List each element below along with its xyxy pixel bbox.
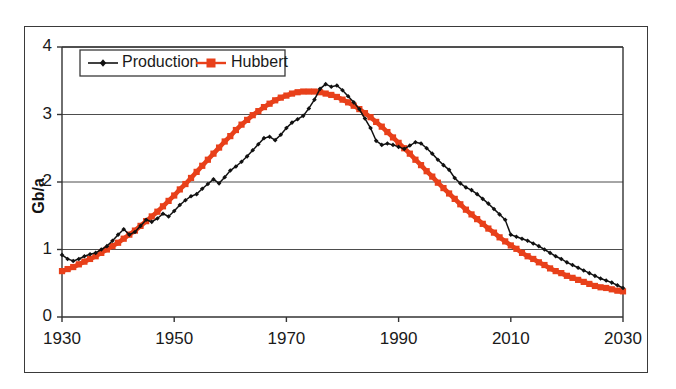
data-point-hubbert-1978	[328, 92, 334, 98]
data-point-hubbert-2012	[519, 250, 525, 256]
y-axis-label: Gb/a	[30, 178, 47, 214]
data-point-hubbert-1960	[227, 133, 233, 139]
data-point-hubbert-1935	[87, 256, 93, 262]
data-point-hubbert-1989	[390, 134, 396, 140]
data-point-hubbert-1950	[171, 192, 177, 198]
data-point-hubbert-2028	[609, 286, 615, 292]
data-point-hubbert-1958	[216, 144, 222, 150]
x-tick-label-1930: 1930	[43, 329, 81, 348]
chart-figure: 01234 193019501970199020102030 Gb/a Prod…	[0, 0, 676, 389]
data-point-hubbert-1933	[76, 261, 82, 267]
data-point-hubbert-1930	[59, 268, 65, 274]
x-tick-label-1950: 1950	[155, 329, 193, 348]
chart-plot-svg: 01234 193019501970199020102030 Gb/a Prod…	[0, 0, 676, 389]
data-point-hubbert-1948	[160, 203, 166, 209]
data-point-hubbert-2010	[508, 242, 514, 248]
data-point-hubbert-1953	[188, 175, 194, 181]
data-point-hubbert-1995	[424, 168, 430, 174]
data-point-hubbert-1946	[149, 213, 155, 219]
data-point-hubbert-2024	[586, 281, 592, 287]
data-point-hubbert-2001	[457, 201, 463, 207]
data-point-hubbert-2015	[536, 259, 542, 265]
data-point-hubbert-1964	[250, 112, 256, 118]
data-point-hubbert-1998	[440, 185, 446, 191]
data-point-hubbert-1962	[238, 122, 244, 128]
data-point-hubbert-1965	[255, 108, 261, 114]
data-point-hubbert-1931	[65, 266, 71, 272]
x-tick-label-2030: 2030	[604, 329, 642, 348]
data-point-hubbert-1952	[182, 181, 188, 187]
data-point-hubbert-1996	[429, 174, 435, 180]
data-point-hubbert-1934	[81, 259, 87, 265]
legend-label-production: Production	[122, 53, 199, 70]
data-point-hubbert-2029	[614, 288, 620, 294]
data-point-hubbert-1949	[165, 198, 171, 204]
x-tick-label-1970: 1970	[267, 329, 305, 348]
data-point-hubbert-2004	[474, 216, 480, 222]
data-point-hubbert-1986	[373, 119, 379, 125]
data-point-hubbert-1992	[407, 151, 413, 157]
data-point-hubbert-2002	[463, 207, 469, 213]
data-point-hubbert-1955	[199, 163, 205, 169]
data-point-hubbert-1957	[210, 151, 216, 157]
data-point-hubbert-1985	[367, 114, 373, 120]
data-point-hubbert-2000	[452, 196, 458, 202]
data-point-hubbert-2008	[496, 234, 502, 240]
data-point-hubbert-2014	[530, 256, 536, 262]
y-tick-label-3: 3	[43, 104, 52, 123]
x-tick-label-1990: 1990	[380, 329, 418, 348]
data-point-hubbert-1939	[109, 243, 115, 249]
data-point-hubbert-1972	[295, 89, 301, 95]
data-point-hubbert-2017	[547, 265, 553, 271]
data-point-hubbert-1940	[115, 240, 121, 246]
data-point-hubbert-2013	[525, 253, 531, 259]
data-point-hubbert-2026	[597, 284, 603, 290]
data-point-hubbert-1988	[384, 129, 390, 135]
data-point-hubbert-2018	[553, 268, 559, 274]
data-point-hubbert-1973	[300, 88, 306, 94]
data-point-hubbert-1968	[272, 97, 278, 103]
data-point-hubbert-1963	[244, 117, 250, 123]
data-point-hubbert-1941	[121, 236, 127, 242]
data-point-hubbert-2003	[468, 211, 474, 217]
data-point-hubbert-1979	[334, 94, 340, 100]
data-point-hubbert-1970	[283, 93, 289, 99]
y-tick-label-4: 4	[43, 36, 52, 55]
legend-label-hubbert: Hubbert	[231, 53, 288, 70]
data-point-hubbert-1997	[435, 180, 441, 186]
data-point-hubbert-1993	[412, 157, 418, 163]
data-point-hubbert-1974	[306, 88, 312, 94]
data-point-hubbert-2025	[592, 283, 598, 289]
data-point-hubbert-1999	[446, 190, 452, 196]
data-point-hubbert-2007	[491, 230, 497, 236]
data-point-hubbert-2019	[558, 270, 564, 276]
data-point-hubbert-2006	[485, 225, 491, 231]
data-point-hubbert-2023	[581, 279, 587, 285]
data-point-hubbert-1961	[233, 127, 239, 133]
y-tick-label-0: 0	[43, 306, 52, 325]
y-tick-label-1: 1	[43, 239, 52, 258]
data-point-hubbert-2022	[575, 277, 581, 283]
data-point-hubbert-1980	[339, 97, 345, 103]
data-point-hubbert-1981	[345, 99, 351, 105]
data-point-hubbert-2020	[564, 273, 570, 279]
square-icon	[207, 59, 216, 68]
data-point-hubbert-2021	[569, 275, 575, 281]
data-point-hubbert-1969	[278, 95, 284, 101]
data-point-hubbert-2016	[541, 262, 547, 268]
data-point-hubbert-1951	[177, 186, 183, 192]
data-point-hubbert-1971	[289, 90, 295, 96]
data-point-hubbert-2009	[502, 238, 508, 244]
data-point-hubbert-1994	[418, 162, 424, 168]
data-point-hubbert-1956	[205, 157, 211, 163]
data-point-hubbert-1987	[379, 124, 385, 130]
data-point-hubbert-2027	[603, 285, 609, 291]
data-point-hubbert-2011	[513, 246, 519, 252]
data-point-hubbert-2005	[480, 221, 486, 227]
data-point-hubbert-1959	[222, 138, 228, 144]
data-point-hubbert-1975	[311, 88, 317, 94]
x-tick-label-2010: 2010	[492, 329, 530, 348]
data-point-hubbert-1932	[70, 264, 76, 270]
data-point-hubbert-1947	[154, 209, 160, 215]
x-tick-labels-group: 193019501970199020102030	[43, 329, 642, 348]
